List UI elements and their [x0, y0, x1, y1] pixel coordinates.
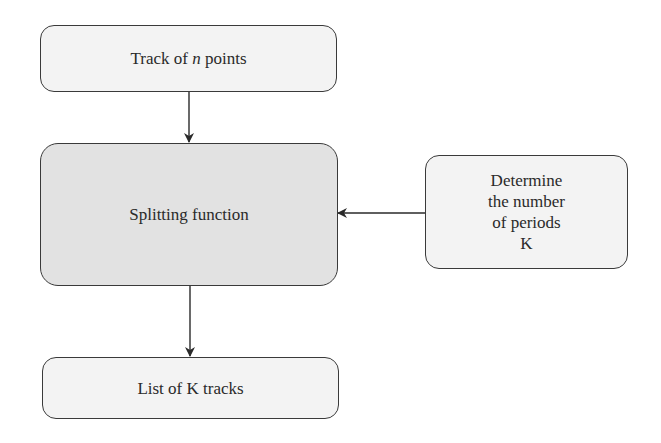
- node-label: List of K tracks: [137, 378, 243, 399]
- label-line: K: [488, 233, 565, 254]
- label-line: Determine: [488, 170, 565, 191]
- node-determine-periods: Determine the number of periods K: [425, 155, 628, 269]
- label-suffix: points: [201, 49, 247, 68]
- label-prefix: Track of: [130, 49, 192, 68]
- node-label: Splitting function: [129, 204, 248, 225]
- label-line: the number: [488, 191, 565, 212]
- label-variable: n: [192, 49, 201, 68]
- node-label: Track of n points: [130, 48, 246, 69]
- node-track-of-n-points: Track of n points: [40, 25, 337, 92]
- node-label: Determine the number of periods K: [488, 170, 565, 254]
- node-list-of-k-tracks: List of K tracks: [42, 357, 339, 419]
- label-line: of periods: [488, 212, 565, 233]
- node-splitting-function: Splitting function: [40, 143, 338, 286]
